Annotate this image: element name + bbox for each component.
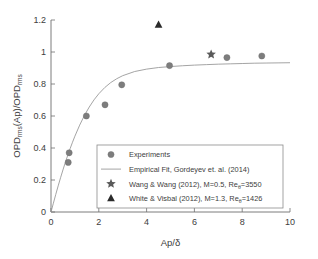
x-tick-label-4: 8 <box>240 217 245 227</box>
y-tick-label-1: 0.2 <box>33 175 46 185</box>
legend-label-3: White & Visbal (2012), M=1.3, Reθ=1426 <box>129 194 262 204</box>
y-tick-label-3: 0.6 <box>33 111 46 121</box>
x-tick-label-3: 6 <box>192 217 197 227</box>
x-tick-label-5: 10 <box>285 217 295 227</box>
y-tick-label-5: 1 <box>41 47 46 57</box>
y-tick-label-0: 0 <box>41 207 46 217</box>
legend-label-2: Wang & Wang (2012), M=0.5, Reθ=3550 <box>129 180 262 190</box>
data-point-circle-4 <box>119 82 125 88</box>
data-point-star-0 <box>206 49 216 58</box>
legend-marker-circle <box>108 151 114 157</box>
data-point-circle-1 <box>66 150 72 156</box>
data-point-circle-3 <box>102 102 108 108</box>
svg-text:OPDrms(Ap)/OPDrms: OPDrms(Ap)/OPDrms <box>11 74 23 158</box>
y-tick-label-6: 1.2 <box>33 15 46 25</box>
data-point-circle-5 <box>166 63 172 69</box>
data-point-circle-0 <box>65 159 71 165</box>
data-point-circle-7 <box>259 53 265 59</box>
data-point-triangle-0 <box>155 21 163 28</box>
chart-figure: 024681000.20.40.60.811.2Ap/δOPDrms(Ap)/O… <box>0 0 318 259</box>
legend-label-0: Experiments <box>129 150 170 159</box>
legend-label-1: Empirical Fit, Gordeyev et. al. (2014) <box>129 165 249 174</box>
data-point-circle-2 <box>83 113 89 119</box>
y-tick-label-4: 0.8 <box>33 79 46 89</box>
y-tick-label-2: 0.4 <box>33 143 46 153</box>
y-axis-title: OPDrms(Ap)/OPDrms <box>11 74 23 158</box>
x-tick-label-1: 2 <box>96 217 101 227</box>
scatter-plot: 024681000.20.40.60.811.2Ap/δOPDrms(Ap)/O… <box>0 0 318 259</box>
x-tick-label-2: 4 <box>144 217 149 227</box>
data-point-circle-6 <box>224 55 230 61</box>
x-tick-label-0: 0 <box>48 217 53 227</box>
x-axis-title: Ap/δ <box>161 237 181 248</box>
